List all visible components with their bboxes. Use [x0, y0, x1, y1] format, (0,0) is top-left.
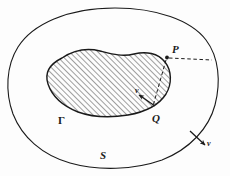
label-inner-boundary-gamma: Γ [58, 115, 65, 126]
label-outer-boundary-S: S [100, 150, 106, 161]
figure-container: P Q Γ S ν ν [0, 0, 230, 176]
normal-arrow-at-S [190, 131, 205, 145]
label-point-Q: Q [152, 113, 160, 124]
point-marker-P [165, 56, 169, 60]
label-point-P: P [172, 44, 179, 55]
label-normal-nu-inner: ν [135, 87, 139, 95]
dashed-segment-P-to-S [169, 58, 212, 60]
diagram-canvas [0, 0, 230, 176]
label-normal-nu-outer: ν [207, 140, 211, 148]
